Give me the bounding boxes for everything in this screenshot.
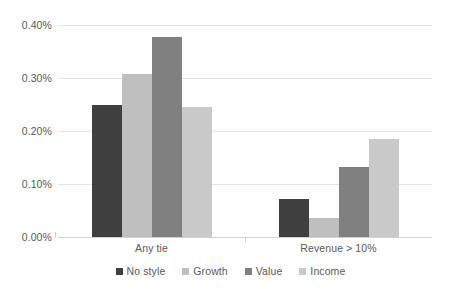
bar-chart: 0.00%0.10%0.20%0.30%0.40% Any tieRevenue… [0,0,461,289]
bar [122,74,152,237]
legend-swatch-icon [299,268,306,275]
legend-item[interactable]: Value [245,266,283,277]
bar-group [92,25,212,237]
bar [182,107,212,237]
x-axis-category-label: Any tie [58,243,245,254]
bar [339,167,369,237]
y-axis-tick-label: 0.40% [4,20,52,31]
x-axis-category-label: Revenue > 10% [245,243,432,254]
y-axis-origin-tick [55,232,56,238]
legend-item-label: Growth [193,266,227,277]
legend-item[interactable]: Income [299,266,345,277]
bar [279,199,309,237]
legend-swatch-icon [116,268,123,275]
y-axis-tick-label: 0.00% [4,232,52,243]
bar-group [279,25,399,237]
bar [309,218,339,237]
legend-item[interactable]: Growth [182,266,227,277]
x-axis-group-tick [245,237,246,242]
legend-swatch-icon [182,268,189,275]
legend-item[interactable]: No style [116,266,166,277]
bar [369,139,399,237]
y-axis-labels: 0.00%0.10%0.20%0.30%0.40% [0,0,52,289]
y-axis-tick-label: 0.20% [4,126,52,137]
plot-area [58,25,432,237]
legend-swatch-icon [245,268,252,275]
y-axis-tick-label: 0.30% [4,73,52,84]
bar [152,37,182,237]
legend-item-label: Income [310,266,345,277]
bar [92,105,122,238]
y-axis-tick-label: 0.10% [4,179,52,190]
legend-item-label: Value [256,266,283,277]
legend-item-label: No style [127,266,166,277]
chart-legend: No styleGrowthValueIncome [0,266,461,277]
